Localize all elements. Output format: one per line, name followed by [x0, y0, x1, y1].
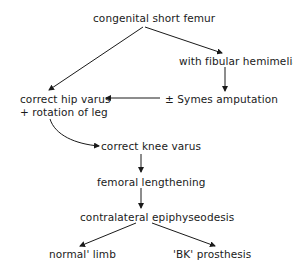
node-rotation-of-leg: + rotation of leg [20, 106, 108, 118]
edge-epiphyseodesis-to-prosthesis [152, 223, 215, 246]
edge-root-to-hip [49, 27, 143, 90]
node-congenital-short-femur: congenital short femur [93, 12, 215, 24]
node-correct-knee-varus: correct knee varus [101, 140, 201, 152]
edge-root-to-fibular [145, 27, 222, 53]
edge-epiphyseodesis-to-normal [80, 223, 136, 246]
diagram-edges [0, 0, 293, 266]
node-normal-limb: normal' limb [49, 248, 116, 260]
node-femoral-lengthening: femoral lengthening [97, 176, 206, 188]
node-bk-prosthesis: 'BK' prosthesis [173, 248, 251, 260]
node-contralateral-epiphyseodesis: contralateral epiphyseodesis [80, 211, 234, 223]
node-symes-amputation: ± Symes amputation [165, 93, 278, 105]
edge-hip-to-knee [50, 119, 99, 146]
node-fibular-hemimelia: with fibular hemimelia [179, 55, 293, 67]
node-correct-hip-varus: correct hip varus [20, 93, 110, 105]
